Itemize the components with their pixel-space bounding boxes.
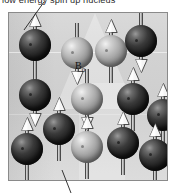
top-leader-line <box>0 0 179 193</box>
figure-root: low energy spin up nucleus <box>0 0 179 193</box>
